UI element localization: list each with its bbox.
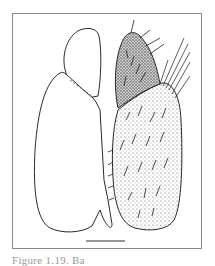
left-main-lobe xyxy=(34,72,112,232)
figure-caption: Figure 1.19. Ba xyxy=(12,254,85,266)
